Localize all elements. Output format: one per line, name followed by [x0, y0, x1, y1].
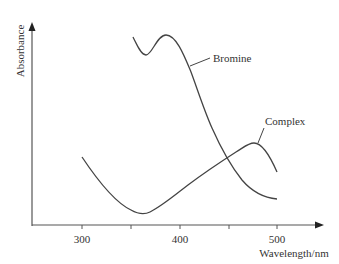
- x-ticks: [82, 225, 277, 229]
- complex-curve: [82, 143, 277, 214]
- bromine-label: Bromine: [213, 52, 252, 64]
- absorbance-chart: 300 400 500 Wavelength/nm Absorbance Bro…: [0, 0, 339, 264]
- complex-leader-line: [258, 128, 264, 143]
- x-axis-label: Wavelength/nm: [259, 247, 329, 259]
- bromine-leader-line: [190, 58, 210, 66]
- x-tick-label-300: 300: [74, 233, 91, 245]
- y-axis-arrow-icon: [29, 22, 36, 31]
- x-axis-arrow-icon: [315, 222, 324, 229]
- y-axis-label: Absorbance: [14, 25, 26, 78]
- x-tick-label-500: 500: [269, 233, 286, 245]
- x-tick-label-400: 400: [172, 233, 189, 245]
- complex-label: Complex: [265, 115, 306, 127]
